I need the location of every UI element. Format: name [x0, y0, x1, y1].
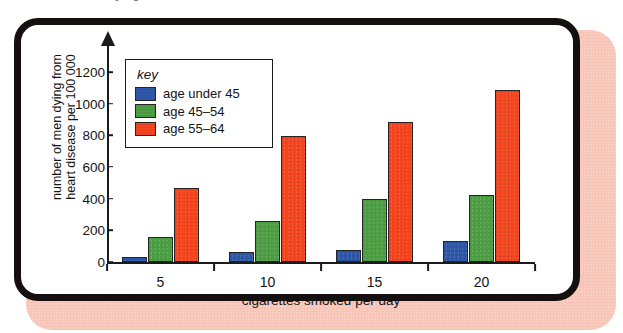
x-tick-mark — [427, 264, 429, 271]
legend-rows: age under 45age 45–54age 55–64 — [135, 86, 263, 136]
bar-age-55-64-15 — [388, 122, 414, 262]
bar-age-45-54-10 — [255, 221, 281, 261]
x-tick-label: 20 — [474, 274, 490, 290]
legend-label: age 55–64 — [163, 121, 224, 136]
bar-series-container — [21, 25, 573, 262]
legend-swatch-icon — [135, 104, 156, 118]
bar-age-55-64-20 — [495, 90, 521, 262]
legend-row: age under 45 — [135, 86, 263, 101]
bar-age-under-45-20 — [443, 241, 469, 262]
bar-age-45-54-20 — [469, 195, 495, 262]
bar-age-under-45-10 — [229, 252, 255, 262]
x-tick-label: 10 — [260, 274, 276, 290]
bar-age-45-54-15 — [362, 199, 388, 262]
legend-swatch-icon — [135, 87, 156, 101]
figure-frame: number of men dying from heart disease p… — [14, 18, 580, 301]
x-tick-mark — [213, 264, 215, 271]
bar-age-55-64-10 — [281, 136, 307, 262]
x-tick-mark — [534, 264, 536, 271]
chart-legend: key age under 45age 45–54age 55–64 — [125, 59, 273, 148]
legend-row: age 45–54 — [135, 104, 263, 119]
legend-swatch-icon — [135, 122, 156, 136]
bar-age-under-45-15 — [336, 250, 362, 262]
x-tick-mark — [106, 264, 108, 271]
x-tick-mark — [320, 264, 322, 271]
x-tick-label: 5 — [157, 274, 165, 290]
chart-plot-area: number of men dying from heart disease p… — [21, 25, 573, 294]
x-tick-label: 15 — [367, 274, 383, 290]
x-axis-title: cigarettes smoked per day — [107, 293, 535, 308]
x-axis-tick-labels: 5101520 — [21, 274, 573, 294]
bar-age-55-64-5 — [174, 188, 200, 262]
legend-row: age 55–64 — [135, 121, 263, 136]
legend-title: key — [137, 67, 263, 82]
cropped-text-sliver: number of men dying from heart disease — [0, 0, 623, 14]
x-axis-ticks — [21, 264, 573, 272]
bar-age-under-45-5 — [122, 257, 148, 262]
bar-age-45-54-5 — [148, 237, 174, 262]
legend-label: age 45–54 — [163, 104, 224, 119]
cropped-text-ghost: number of men dying from heart disease — [14, 0, 255, 1]
legend-label: age under 45 — [163, 86, 240, 101]
